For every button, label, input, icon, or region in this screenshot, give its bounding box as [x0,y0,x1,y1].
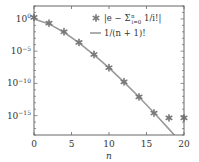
svg-text:|e − Σni=0 1/i!|: |e − Σni=0 1/i!| [104,13,161,25]
legend-label-error: |e − Σ [104,13,130,24]
asterisk-marker-icon [166,115,172,121]
asterisk-marker-icon [93,15,99,21]
y-tick-label: 100 [16,12,31,24]
y-tick-label: 10−15 [7,109,31,121]
legend-label-factorial: 1/(n + 1)! [104,28,146,38]
x-tick-label: 5 [69,139,75,149]
x-axis-label: n [106,151,112,161]
legend-label-error-sub: i=0 [131,19,141,25]
x-tick-label: 15 [141,139,153,149]
y-tick-label: 10−5 [11,45,31,57]
x-tick-label: 20 [178,139,190,149]
legend-entry-error: |e − Σni=0 1/i!| [93,13,161,25]
chart: 0510152010010−510−1010−15 n |e − Σni=0 1… [0,0,199,162]
asterisk-marker-icon [93,15,99,21]
legend: |e − Σni=0 1/i!| 1/(n + 1)! [90,13,161,38]
y-tick-label: 10−10 [7,77,31,89]
legend-label-error-tail: 1/i!| [141,13,161,24]
x-tick-label: 10 [103,139,115,149]
x-tick-label: 0 [31,139,37,149]
legend-entry-factorial: 1/(n + 1)! [90,28,146,38]
